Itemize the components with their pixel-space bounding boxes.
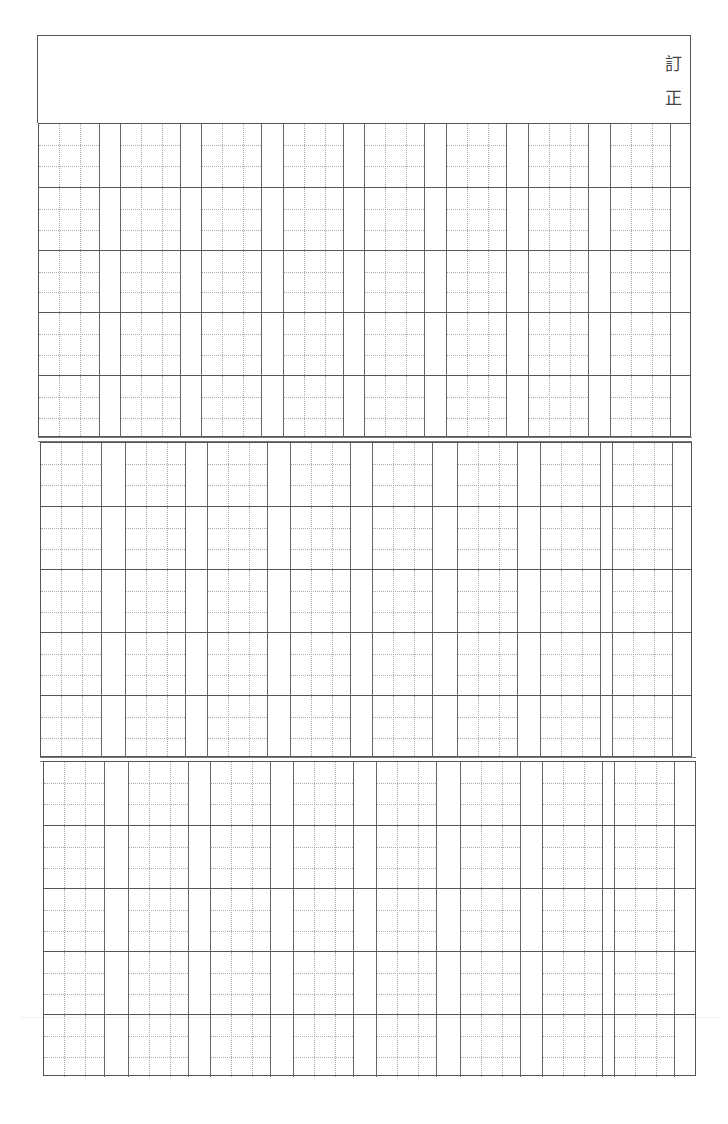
writing-cell[interactable] (614, 826, 675, 888)
writing-cell[interactable] (41, 570, 102, 632)
writing-cell[interactable] (207, 507, 268, 569)
writing-cell[interactable] (612, 443, 673, 506)
writing-cell[interactable] (293, 889, 354, 951)
writing-cell[interactable] (207, 570, 268, 632)
writing-cell[interactable] (457, 443, 518, 506)
writing-cell[interactable] (457, 696, 518, 758)
writing-cell[interactable] (207, 633, 268, 695)
writing-cell[interactable] (364, 188, 425, 250)
writing-cell[interactable] (201, 188, 262, 250)
writing-cell[interactable] (41, 696, 102, 758)
writing-cell[interactable] (128, 826, 189, 888)
writing-cell[interactable] (372, 507, 433, 569)
writing-cell[interactable] (446, 313, 507, 375)
writing-cell[interactable] (364, 251, 425, 313)
writing-cell[interactable] (44, 826, 105, 888)
writing-cell[interactable] (120, 376, 181, 438)
writing-cell[interactable] (290, 570, 351, 632)
writing-cell[interactable] (210, 952, 271, 1014)
writing-cell[interactable] (610, 188, 671, 250)
writing-cell[interactable] (120, 124, 181, 187)
writing-cell[interactable] (460, 762, 521, 825)
writing-cell[interactable] (540, 633, 601, 695)
writing-cell[interactable] (39, 188, 100, 250)
writing-cell[interactable] (120, 188, 181, 250)
writing-cell[interactable] (293, 952, 354, 1014)
writing-cell[interactable] (528, 188, 589, 250)
writing-cell[interactable] (39, 251, 100, 313)
writing-cell[interactable] (614, 889, 675, 951)
writing-cell[interactable] (39, 124, 100, 187)
writing-cell[interactable] (290, 696, 351, 758)
writing-cell[interactable] (293, 1015, 354, 1077)
writing-cell[interactable] (610, 124, 671, 187)
writing-cell[interactable] (283, 251, 344, 313)
writing-cell[interactable] (120, 313, 181, 375)
writing-cell[interactable] (376, 826, 437, 888)
writing-cell[interactable] (125, 507, 186, 569)
writing-cell[interactable] (210, 826, 271, 888)
writing-cell[interactable] (610, 313, 671, 375)
writing-cell[interactable] (283, 376, 344, 438)
writing-cell[interactable] (460, 952, 521, 1014)
writing-cell[interactable] (542, 952, 603, 1014)
writing-cell[interactable] (612, 633, 673, 695)
writing-cell[interactable] (457, 633, 518, 695)
writing-cell[interactable] (128, 952, 189, 1014)
writing-cell[interactable] (372, 443, 433, 506)
writing-cell[interactable] (372, 570, 433, 632)
writing-cell[interactable] (612, 696, 673, 758)
writing-cell[interactable] (446, 251, 507, 313)
writing-cell[interactable] (376, 762, 437, 825)
writing-cell[interactable] (201, 376, 262, 438)
writing-cell[interactable] (290, 507, 351, 569)
writing-cell[interactable] (376, 889, 437, 951)
writing-cell[interactable] (376, 1015, 437, 1077)
writing-cell[interactable] (283, 313, 344, 375)
writing-cell[interactable] (528, 251, 589, 313)
writing-cell[interactable] (41, 507, 102, 569)
writing-cell[interactable] (612, 507, 673, 569)
writing-cell[interactable] (210, 889, 271, 951)
writing-cell[interactable] (364, 376, 425, 438)
writing-cell[interactable] (528, 376, 589, 438)
writing-cell[interactable] (610, 251, 671, 313)
writing-cell[interactable] (207, 696, 268, 758)
writing-cell[interactable] (460, 1015, 521, 1077)
writing-cell[interactable] (372, 696, 433, 758)
writing-cell[interactable] (125, 696, 186, 758)
writing-cell[interactable] (41, 633, 102, 695)
writing-cell[interactable] (540, 696, 601, 758)
writing-cell[interactable] (128, 1015, 189, 1077)
writing-cell[interactable] (283, 188, 344, 250)
writing-cell[interactable] (542, 826, 603, 888)
writing-cell[interactable] (293, 826, 354, 888)
writing-cell[interactable] (128, 889, 189, 951)
writing-cell[interactable] (528, 124, 589, 187)
writing-cell[interactable] (290, 443, 351, 506)
writing-cell[interactable] (128, 762, 189, 825)
writing-cell[interactable] (293, 762, 354, 825)
writing-cell[interactable] (125, 570, 186, 632)
writing-cell[interactable] (446, 376, 507, 438)
writing-cell[interactable] (540, 443, 601, 506)
writing-cell[interactable] (39, 313, 100, 375)
writing-cell[interactable] (201, 124, 262, 187)
writing-cell[interactable] (283, 124, 344, 187)
writing-cell[interactable] (364, 313, 425, 375)
writing-cell[interactable] (210, 762, 271, 825)
writing-cell[interactable] (610, 376, 671, 438)
writing-cell[interactable] (364, 124, 425, 187)
writing-cell[interactable] (44, 889, 105, 951)
writing-cell[interactable] (44, 1015, 105, 1077)
writing-cell[interactable] (614, 1015, 675, 1077)
writing-cell[interactable] (614, 762, 675, 825)
writing-cell[interactable] (125, 633, 186, 695)
writing-cell[interactable] (446, 124, 507, 187)
writing-cell[interactable] (372, 633, 433, 695)
writing-cell[interactable] (201, 251, 262, 313)
writing-cell[interactable] (290, 633, 351, 695)
writing-cell[interactable] (210, 1015, 271, 1077)
writing-cell[interactable] (125, 443, 186, 506)
writing-cell[interactable] (460, 826, 521, 888)
